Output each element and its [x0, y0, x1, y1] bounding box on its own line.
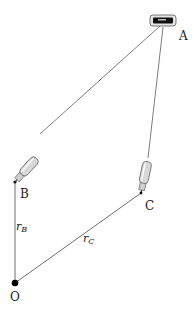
probe-B-icon	[12, 155, 40, 185]
device-A-icon	[150, 15, 176, 26]
point-C-marker	[140, 192, 143, 195]
probe-C-icon	[137, 161, 152, 194]
vector-diagram: A B C O rB rC	[0, 0, 194, 313]
label-O: O	[10, 290, 20, 304]
label-rC: rC	[83, 232, 94, 246]
vector-rC	[15, 193, 141, 283]
line-A-B	[40, 26, 160, 134]
label-rB: rB	[16, 220, 27, 234]
line-A-C	[148, 27, 163, 158]
point-B-marker	[13, 180, 16, 183]
origin-dot	[12, 280, 19, 287]
label-A: A	[178, 29, 188, 43]
label-B: B	[20, 187, 29, 201]
label-C: C	[145, 199, 154, 213]
